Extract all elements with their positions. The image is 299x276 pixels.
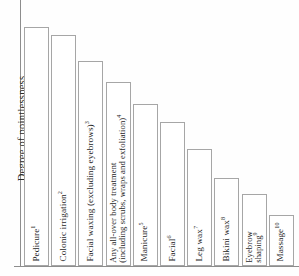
bar: Colonic irrigation2	[51, 35, 76, 266]
bar-chart: Degree of pointlessness Pedicure1Colonic…	[0, 0, 299, 276]
bar-label-line2: shaping9	[254, 194, 263, 263]
bar: Eyebrowshaping9	[242, 194, 267, 266]
bar-label: Eyebrowshaping9	[245, 194, 264, 263]
bar-label: Facial waxing (excluding eyebrows)3	[86, 121, 96, 262]
plot-area: Pedicure1Colonic irrigation2Facial waxin…	[21, 0, 299, 266]
bar-label-footnote: 8	[219, 217, 226, 220]
bar-label-line2: (including scrubs, wraps and exfoliation…	[118, 113, 127, 263]
bar: Any all-over body treatment(including sc…	[106, 82, 131, 266]
bar-label-footnote: 4	[115, 115, 122, 118]
bar: Facial waxing (excluding eyebrows)3	[78, 61, 103, 266]
bar-label-footnote: 9	[251, 232, 258, 235]
bar-label-footnote: 1	[29, 226, 36, 229]
bar-label: Facial6	[168, 236, 178, 262]
bar: Pedicure1	[24, 27, 49, 266]
bar: Leg wax7	[187, 149, 212, 266]
bar: Bikini wax8	[214, 178, 239, 266]
bar-label: Manicure5	[141, 223, 151, 262]
bar-label-footnote: 6	[165, 236, 172, 239]
bar: Facial6	[160, 122, 185, 266]
bar-label: Leg wax7	[195, 226, 205, 262]
x-axis-line	[14, 266, 299, 267]
bar-label-footnote: 7	[192, 226, 199, 229]
bar-label-footnote: 5	[137, 223, 144, 226]
bar-label: Massage10	[277, 223, 287, 262]
bar-label: Colonic irrigation2	[59, 191, 69, 262]
bar: Manicure5	[133, 104, 158, 266]
bar-label-footnote: 2	[56, 191, 63, 194]
bar-label-footnote: 10	[273, 223, 280, 229]
bar-label-footnote: 3	[83, 121, 90, 124]
bar: Massage10	[269, 215, 294, 266]
bar-label: Pedicure1	[32, 226, 42, 262]
bar-label: Any all-over body treatment(including sc…	[109, 113, 128, 263]
bar-label: Bikini wax8	[222, 217, 232, 262]
